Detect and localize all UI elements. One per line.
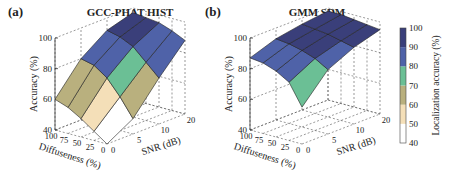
svg-text:5: 5 (332, 135, 336, 145)
svg-text:50: 50 (73, 138, 82, 148)
svg-text:100: 100 (234, 33, 248, 43)
surface-plot-b: 4060801001007550250051020Accuracy (%)Dif… (200, 0, 400, 171)
svg-text:80: 80 (409, 61, 419, 71)
svg-text:70: 70 (409, 81, 419, 91)
svg-text:100: 100 (409, 23, 423, 33)
svg-text:25: 25 (86, 142, 95, 152)
svg-text:5: 5 (137, 135, 141, 145)
svg-text:50: 50 (409, 119, 419, 129)
svg-text:100: 100 (39, 33, 53, 43)
svg-text:Localization accuracy (%): Localization accuracy (%) (431, 35, 442, 135)
svg-text:40: 40 (409, 138, 419, 148)
svg-text:0: 0 (111, 145, 115, 155)
figure: (a) GCC-PHAT HIST (b) GMM SDM 4060801001… (0, 0, 455, 171)
svg-text:80: 80 (43, 64, 53, 74)
svg-text:100: 100 (240, 131, 253, 141)
svg-text:0: 0 (306, 145, 310, 155)
svg-text:Accuracy (%): Accuracy (%) (28, 56, 40, 112)
svg-text:20: 20 (187, 115, 196, 125)
colorbar: 100908070605040Localization accuracy (%) (395, 0, 455, 171)
svg-text:20: 20 (382, 115, 391, 125)
svg-text:75: 75 (60, 135, 69, 145)
svg-text:SNR (dB): SNR (dB) (140, 134, 182, 158)
svg-text:0: 0 (296, 145, 300, 155)
svg-text:50: 50 (268, 138, 277, 148)
svg-text:Accuracy (%): Accuracy (%) (223, 56, 235, 112)
svg-text:60: 60 (238, 94, 248, 104)
svg-text:10: 10 (161, 125, 170, 135)
svg-text:100: 100 (45, 131, 58, 141)
svg-text:SNR (dB): SNR (dB) (335, 134, 377, 158)
svg-text:0: 0 (101, 145, 105, 155)
svg-text:60: 60 (409, 100, 419, 110)
svg-text:90: 90 (409, 42, 419, 52)
surface-plot-a: 4060801001007550250051020Accuracy (%)Dif… (0, 0, 215, 171)
svg-text:75: 75 (255, 135, 264, 145)
svg-text:25: 25 (281, 142, 290, 152)
svg-text:10: 10 (356, 125, 365, 135)
svg-text:60: 60 (43, 94, 53, 104)
svg-text:80: 80 (238, 64, 248, 74)
